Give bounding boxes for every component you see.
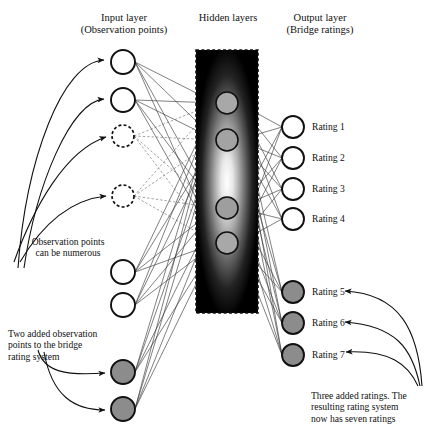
input-node-6 [111,293,135,317]
input-node-3-dashed [112,125,134,147]
annotation-added-ratings: Three added ratings. The resulting ratin… [311,390,441,424]
annotation-observation-line-2: can be numerous [6,247,130,258]
hidden-layer-block [196,50,258,313]
input-node-4-dashed [112,185,134,207]
hidden-node [216,92,238,114]
input-node-7-added [111,360,135,384]
input-node-2 [111,88,135,112]
output-node-1 [282,116,304,138]
output-node-7-added [282,344,304,366]
output-label-rating-2: Rating 2 [312,152,345,163]
annotation-added-inputs-line-2: points to the bridge [8,339,136,350]
annotation-added-inputs-line-3: rating system [8,351,136,362]
hidden-node [216,129,238,151]
hidden-node [216,232,238,254]
input-node-5 [111,260,135,284]
output-label-rating-6: Rating 6 [312,317,345,328]
hidden-node [216,197,238,219]
annotation-added-ratings-line-1: Three added ratings. The [311,390,441,401]
annotation-added-ratings-line-3: now has seven ratings [311,413,441,424]
annotation-added-ratings-line-2: resulting rating system [311,401,441,412]
annotation-observation-points: Observation points can be numerous [6,236,130,259]
input-node-8-added [111,397,135,421]
output-label-rating-3: Rating 3 [312,183,345,194]
annotation-added-inputs: Two added observation points to the brid… [8,328,136,362]
input-node-1 [111,50,135,74]
annotation-arrows-added-ratings [345,291,422,386]
output-label-rating-1: Rating 1 [312,121,345,132]
output-label-rating-4: Rating 4 [312,213,345,224]
output-node-2 [282,147,304,169]
output-node-3 [282,178,304,200]
diagram-canvas: Input layer (Observation points) Hidden … [0,0,441,445]
output-node-6-added [282,312,304,334]
network-graphics [0,0,441,445]
annotation-observation-line-1: Observation points [6,236,130,247]
output-node-4 [282,208,304,230]
output-label-rating-5: Rating 5 [312,286,345,297]
output-nodes [282,116,304,366]
output-label-rating-7: Rating 7 [312,349,345,360]
output-node-5-added [282,281,304,303]
annotation-added-inputs-line-1: Two added observation [8,328,136,339]
